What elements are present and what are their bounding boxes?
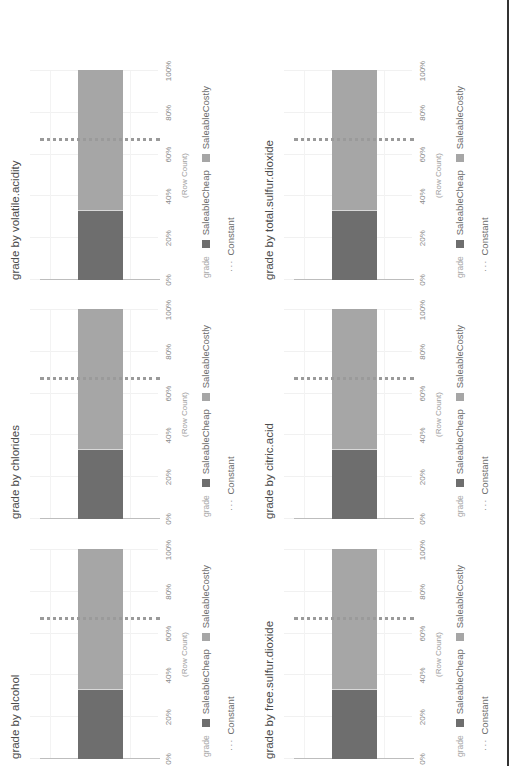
legend-constant[interactable]: ···Constant xyxy=(479,217,490,272)
legend: gradeSaleableCheapSaleableCostly xyxy=(454,317,465,517)
tick-label: 0% xyxy=(418,513,427,525)
chart-panel: grade by alcohol0%20%40%60%80%100%(Row C… xyxy=(0,519,250,759)
legend-swatch-icon xyxy=(456,719,464,727)
constant-reference-line xyxy=(294,138,414,141)
legend: gradeSaleableCheapSaleableCostly xyxy=(200,557,211,757)
legend-item-label: SaleableCostly xyxy=(200,86,211,149)
tick-label: 80% xyxy=(418,344,427,360)
tick-label: 60% xyxy=(418,626,427,642)
x-axis-title: (Row Count) xyxy=(434,632,443,677)
legend-item[interactable]: SaleableCheap xyxy=(454,170,465,248)
dotted-line-icon: ··· xyxy=(225,499,236,512)
legend-item[interactable]: SaleableCostly xyxy=(200,86,211,162)
legend-constant[interactable]: ···Constant xyxy=(479,456,490,511)
tick-label: 100% xyxy=(164,61,173,81)
bar-segment-saleablecheap[interactable] xyxy=(332,211,377,280)
tick-label: 60% xyxy=(164,147,173,163)
legend-swatch-icon xyxy=(202,633,210,641)
chart-panel: grade by total.sulfur.dioxide0%20%40%60%… xyxy=(254,40,504,280)
legend-item[interactable]: SaleableCheap xyxy=(200,170,211,248)
legend-constant-label: Constant xyxy=(225,456,236,494)
legend-swatch-icon xyxy=(202,154,210,162)
legend-constant-label: Constant xyxy=(225,696,236,734)
tick-label: 0% xyxy=(418,274,427,286)
tick-label: 100% xyxy=(418,61,427,81)
tick-label: 40% xyxy=(418,667,427,683)
gridline xyxy=(50,310,51,519)
legend-item[interactable]: SaleableCheap xyxy=(200,409,211,487)
x-axis-title: (Row Count) xyxy=(180,632,189,677)
constant-reference-line xyxy=(40,617,160,620)
tick-label: 60% xyxy=(418,386,427,402)
tick-label: 80% xyxy=(164,584,173,600)
legend-item[interactable]: SaleableCheap xyxy=(200,649,211,727)
chart-title: grade by free.sulfur.dioxide xyxy=(263,621,275,759)
legend-constant[interactable]: ···Constant xyxy=(225,696,236,751)
tick-label: 100% xyxy=(164,540,173,560)
legend-item[interactable]: SaleableCostly xyxy=(454,325,465,401)
legend-item[interactable]: SaleableCostly xyxy=(454,565,465,641)
chart-title: grade by volatile.acidity xyxy=(9,160,21,280)
legend: gradeSaleableCheapSaleableCostly xyxy=(200,317,211,517)
bar-segment-saleablecheap[interactable] xyxy=(78,690,123,759)
chart-title: grade by total.sulfur.dioxide xyxy=(263,140,275,280)
x-axis-title: (Row Count) xyxy=(434,392,443,437)
tick-label: 60% xyxy=(164,386,173,402)
x-axis-ticks: 0%20%40%60%80%100% xyxy=(418,289,430,519)
legend-swatch-icon xyxy=(202,719,210,727)
legend-constant[interactable]: ···Constant xyxy=(225,456,236,511)
plot-area xyxy=(284,550,412,759)
legend-constant[interactable]: ···Constant xyxy=(225,217,236,272)
tick-label: 40% xyxy=(418,188,427,204)
x-axis-ticks: 0%20%40%60%80%100% xyxy=(164,289,176,519)
tick-label: 40% xyxy=(164,427,173,443)
legend-title: grade xyxy=(455,495,465,517)
gridline xyxy=(50,550,51,759)
tick-label: 0% xyxy=(418,753,427,765)
legend-item[interactable]: SaleableCostly xyxy=(200,565,211,641)
gridline xyxy=(384,310,385,519)
x-axis-title: (Row Count) xyxy=(180,392,189,437)
bar-segment-saleablecheap[interactable] xyxy=(78,211,123,280)
constant-reference-line xyxy=(40,138,160,141)
legend-swatch-icon xyxy=(456,154,464,162)
legend-title: grade xyxy=(201,256,211,278)
gridline xyxy=(50,71,51,280)
legend-item[interactable]: SaleableCostly xyxy=(454,86,465,162)
chart-title: grade by citric.acid xyxy=(263,423,275,519)
legend-item[interactable]: SaleableCheap xyxy=(454,649,465,727)
tick-label: 60% xyxy=(164,626,173,642)
tick-label: 80% xyxy=(164,105,173,121)
legend-swatch-icon xyxy=(456,240,464,248)
tick-label: 80% xyxy=(164,344,173,360)
page-border-line xyxy=(507,0,509,766)
x-axis-ticks: 0%20%40%60%80%100% xyxy=(164,50,176,280)
constant-reference-line xyxy=(40,377,160,380)
legend-swatch-icon xyxy=(456,633,464,641)
x-axis-ticks: 0%20%40%60%80%100% xyxy=(418,50,430,280)
tick-label: 80% xyxy=(418,584,427,600)
tick-label: 100% xyxy=(418,540,427,560)
bar-segment-saleablecheap[interactable] xyxy=(78,450,123,519)
legend-title: grade xyxy=(455,735,465,757)
tick-label: 0% xyxy=(164,513,173,525)
legend-swatch-icon xyxy=(202,393,210,401)
bar-segment-saleablecheap[interactable] xyxy=(332,690,377,759)
legend-title: grade xyxy=(201,735,211,757)
legend-constant[interactable]: ···Constant xyxy=(479,696,490,751)
legend-item-label: SaleableCostly xyxy=(454,565,465,628)
legend-swatch-icon xyxy=(202,240,210,248)
legend-item-label: SaleableCheap xyxy=(200,170,211,235)
chart-panel: grade by free.sulfur.dioxide0%20%40%60%8… xyxy=(254,519,504,759)
legend-item-label: SaleableCostly xyxy=(454,86,465,149)
gridline xyxy=(130,71,131,280)
tick-label: 20% xyxy=(418,230,427,246)
tick-label: 20% xyxy=(164,230,173,246)
legend-item[interactable]: SaleableCheap xyxy=(454,409,465,487)
legend-item[interactable]: SaleableCostly xyxy=(200,325,211,401)
legend: gradeSaleableCheapSaleableCostly xyxy=(454,78,465,278)
gridline xyxy=(130,310,131,519)
bar-segment-saleablecheap[interactable] xyxy=(332,450,377,519)
rotated-page: grade by alcohol0%20%40%60%80%100%(Row C… xyxy=(0,0,517,783)
legend-constant-label: Constant xyxy=(479,217,490,255)
